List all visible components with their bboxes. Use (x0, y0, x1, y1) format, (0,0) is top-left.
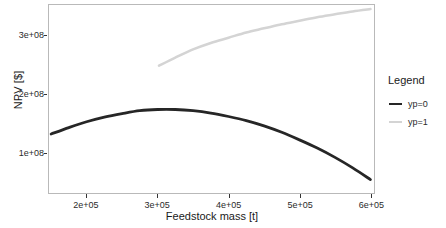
y-tick-mark (44, 153, 47, 154)
plot-panel (48, 4, 375, 194)
y-tick-mark (44, 94, 47, 95)
x-tick-mark (371, 194, 372, 198)
x-axis-title: Feedstock mass [t] (48, 210, 376, 222)
legend-item-yp1[interactable]: yp=1 (388, 114, 446, 130)
legend-title: Legend (388, 74, 446, 86)
line-swatch-icon (388, 117, 403, 128)
x-tick-mark (86, 194, 87, 198)
chart-figure: NPV [$] 1e+08 2e+08 3e+08 2e+05 3e+05 4e… (0, 0, 446, 228)
x-tick-label: 3e+05 (130, 200, 184, 210)
y-tick-label: 3e+08 (6, 30, 44, 40)
legend-item-yp0[interactable]: yp=0 (388, 96, 446, 112)
x-tick-mark (157, 194, 158, 198)
x-tick-label: 5e+05 (273, 200, 327, 210)
y-axis-ticks: 1e+08 2e+08 3e+08 (0, 0, 44, 228)
series-line-yp0 (51, 109, 370, 179)
legend-item-label: yp=0 (408, 99, 428, 109)
x-tick-label: 2e+05 (59, 200, 113, 210)
x-tick-mark (229, 194, 230, 198)
x-tick-label: 4e+05 (202, 200, 256, 210)
x-tick-label: 6e+05 (344, 200, 398, 210)
y-tick-label: 2e+08 (6, 89, 44, 99)
y-tick-label: 1e+08 (6, 148, 44, 158)
line-swatch-icon (388, 99, 403, 110)
series-line-yp1 (159, 9, 370, 66)
legend: Legend yp=0 yp=1 (388, 74, 446, 132)
plot-area (49, 5, 374, 193)
legend-item-label: yp=1 (408, 117, 428, 127)
x-tick-mark (300, 194, 301, 198)
y-tick-mark (44, 35, 47, 36)
